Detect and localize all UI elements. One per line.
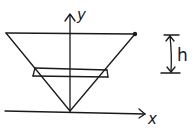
x-axis-label: x xyxy=(147,110,157,128)
cone-rim-line xyxy=(6,33,135,34)
height-line xyxy=(170,36,171,72)
y-axis-label: y xyxy=(76,6,87,24)
cone-outline xyxy=(6,32,137,111)
height-dimension: h xyxy=(161,35,188,73)
slice-top-edge xyxy=(35,68,107,70)
cone-left-edge xyxy=(6,33,70,111)
cone-right-edge xyxy=(70,34,135,111)
slice-bottom-edge xyxy=(33,76,108,77)
slice-right-side xyxy=(107,70,108,77)
height-label: h xyxy=(177,45,188,65)
x-axis: x xyxy=(5,109,157,128)
cone-diagram: x y h xyxy=(0,0,195,133)
rim-point xyxy=(133,32,137,36)
x-axis-line xyxy=(5,111,145,114)
slice-left-side xyxy=(33,68,35,76)
